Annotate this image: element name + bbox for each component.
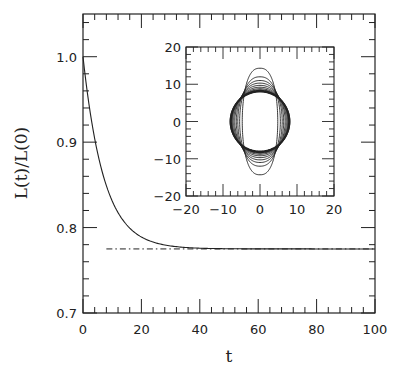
y-axis-label: L(t)/L(0)	[11, 127, 31, 199]
x-tick-label: 60	[250, 322, 267, 337]
inset-y-tick-label: 20	[164, 40, 181, 55]
y-tick-label: 0.8	[56, 221, 77, 236]
inset-frame	[186, 47, 334, 196]
inset-plot-area: −20−1001020−20−1001020	[154, 40, 343, 217]
chart: 0204060801000.70.80.91.0 −20−1001020−20−…	[0, 0, 402, 378]
x-tick-label: 0	[79, 322, 87, 337]
inset-y-tick-label: 10	[164, 77, 181, 92]
inset-x-tick-label: 0	[256, 202, 264, 217]
x-tick-label: 20	[133, 322, 150, 337]
x-tick-label: 40	[192, 322, 209, 337]
x-tick-label: 80	[308, 322, 325, 337]
inset-x-tick-label: 10	[289, 202, 306, 217]
y-tick-label: 0.9	[56, 135, 77, 150]
inset-y-tick-label: −20	[154, 189, 181, 204]
inset-x-tick-label: 20	[326, 202, 343, 217]
inset-x-tick-label: −20	[172, 202, 199, 217]
y-tick-label: 0.7	[56, 306, 77, 321]
x-axis-label: t	[226, 346, 233, 366]
inset-x-tick-label: −10	[209, 202, 236, 217]
y-tick-label: 1.0	[56, 50, 77, 65]
inset-y-tick-label: −10	[154, 152, 181, 167]
x-tick-label: 100	[363, 322, 388, 337]
inset-y-tick-label: 0	[173, 115, 181, 130]
